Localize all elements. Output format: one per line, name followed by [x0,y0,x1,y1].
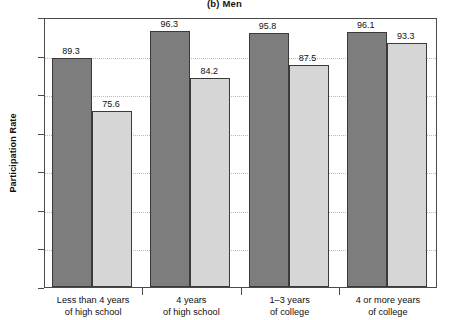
category-label-line1: Less than 4 years [57,295,130,305]
category-label-line2: of college [339,307,437,319]
y-axis-tick-mark [38,288,44,289]
category-label-line1: 4 or more years [356,295,420,305]
bar-value-label: 96.3 [143,19,195,30]
bar-dark [249,33,289,287]
bar-light [387,43,427,287]
bar-value-label: 95.8 [242,21,294,32]
bar-value-label: 96.1 [340,20,392,31]
bar-dark [52,58,92,287]
bar-value-label: 87.5 [282,53,334,64]
bar-value-label: 93.3 [380,31,432,42]
category-label-line1: 1–3 years [269,295,309,305]
plot-area [44,18,437,288]
bar-light [190,78,230,287]
bar-light [92,111,132,287]
bar-light [289,65,329,287]
bar-chart: (b) Men Participation Rate 30.040.050.06… [0,0,449,320]
y-axis-tick-mark [38,249,44,250]
y-axis-tick-mark [38,211,44,212]
y-axis-tick-mark [38,95,44,96]
category-label-line2: of college [241,307,339,319]
x-axis-category-label: 4 yearsof high school [142,295,240,318]
bar-value-label: 89.3 [45,46,97,57]
y-axis-tick-mark [38,18,44,19]
x-axis-tick-mark [339,288,340,295]
x-axis-category-label: 1–3 yearsof college [241,295,339,318]
bar-value-label: 84.2 [183,66,235,77]
x-axis-tick-mark [142,288,143,295]
category-label-line2: of high school [142,307,240,319]
y-axis-tick-mark [38,57,44,58]
y-axis-tick-mark [38,172,44,173]
bar-value-label: 75.6 [85,99,137,110]
x-axis-category-label: Less than 4 yearsof high school [44,295,142,318]
x-axis-tick-mark [241,288,242,295]
category-label-line2: of high school [44,307,142,319]
x-axis-category-label: 4 or more yearsof college [339,295,437,318]
y-axis-title: Participation Rate [8,88,18,218]
chart-title: (b) Men [0,0,449,10]
y-axis-tick-mark [38,134,44,135]
bar-dark [347,32,387,287]
category-label-line1: 4 years [176,295,206,305]
